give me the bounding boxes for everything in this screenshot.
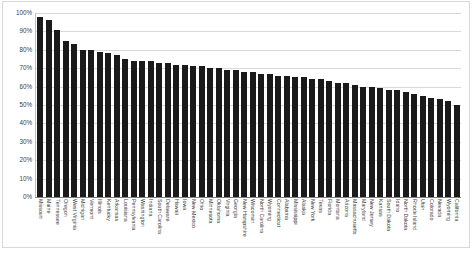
bar — [80, 50, 86, 197]
x-axis-tick-label: New Jersey — [369, 199, 374, 227]
bar — [445, 101, 451, 197]
bar — [250, 72, 256, 197]
x-axis-tick-label: Indiana — [148, 199, 153, 216]
bar — [394, 90, 400, 197]
x-axis-tick-label: Louisiana — [123, 199, 128, 222]
x-axis-tick-label: South Carolina — [157, 199, 162, 234]
y-axis-tick-label: 70% — [19, 65, 32, 71]
bar — [63, 41, 69, 197]
x-axis-tick-label: Washington — [140, 199, 145, 227]
bar — [309, 79, 315, 197]
x-axis-tick-label: Idaho — [395, 199, 400, 212]
bar — [403, 92, 409, 197]
bar — [377, 88, 383, 197]
bar — [54, 30, 60, 197]
bar — [258, 74, 264, 197]
y-axis-tick-label: 30% — [19, 139, 32, 145]
bar-series — [36, 13, 461, 197]
y-axis-tick-label: 40% — [19, 120, 32, 126]
bar — [97, 52, 103, 197]
x-axis-tick-label: California — [454, 199, 459, 221]
x-axis-tick-label: Florida — [327, 199, 332, 215]
x-axis-tick-label: Colorado — [429, 199, 434, 221]
x-axis-tick-label: Iowa — [182, 199, 187, 210]
x-axis-tick-label: Delaware — [165, 199, 170, 221]
y-axis-tick-label: 10% — [19, 175, 32, 181]
x-axis-tick-label: Georgia — [233, 199, 238, 218]
bar — [88, 50, 94, 197]
bar — [37, 17, 43, 197]
bar — [386, 90, 392, 197]
x-axis-tick-label: South Dakota — [386, 199, 391, 231]
bar — [182, 65, 188, 197]
bar — [292, 77, 298, 197]
bar — [369, 87, 375, 197]
bar — [139, 61, 145, 197]
x-axis-tick-label: Ohio — [199, 199, 204, 210]
bar — [335, 83, 341, 197]
bar — [360, 87, 366, 197]
x-axis-tick-label: Texas — [318, 199, 323, 213]
bar — [352, 85, 358, 197]
bar — [173, 65, 179, 197]
bar — [343, 83, 349, 197]
x-axis-tick-label: New Mexico — [191, 199, 196, 228]
x-axis-tick-label: Maryland — [361, 199, 366, 221]
x-axis-tick-label: Connecticut — [276, 199, 281, 227]
y-axis-tick-label: 0% — [23, 194, 32, 200]
plot-area: 100%90%80%70%60%50%40%30%20%10%0% Missou… — [35, 13, 461, 198]
bar — [216, 68, 222, 197]
bar — [233, 70, 239, 197]
bar — [241, 72, 247, 197]
x-axis-tick-label: Massachusetts — [352, 199, 357, 234]
bar — [411, 94, 417, 197]
x-axis-tick-label: Michigan — [80, 199, 85, 220]
chart-frame: 100%90%80%70%60%50%40%30%20%10%0% Missou… — [2, 1, 470, 248]
chart-screenshot: 100%90%80%70%60%50%40%30%20%10%0% Missou… — [0, 0, 473, 255]
x-axis-tick-label: Oregon — [63, 199, 68, 217]
x-axis-tick-label: New York — [310, 199, 315, 221]
x-axis-tick-label: Mississippi — [293, 199, 298, 225]
x-axis-tick-label: Minnesota — [208, 199, 213, 223]
bar — [71, 44, 77, 197]
x-axis-tick-label: Kentucky — [106, 199, 111, 221]
bar — [275, 76, 281, 197]
x-axis-tick-label: Pennsylvania — [131, 199, 136, 231]
y-axis-tick-label: 90% — [19, 28, 32, 34]
x-axis-tick-label: Nevada — [437, 199, 442, 217]
bar — [318, 79, 324, 197]
x-axis-tick-label: Oklahoma — [216, 199, 221, 223]
bar — [114, 55, 120, 197]
x-axis-tick-label: Alabama — [284, 199, 289, 220]
bar — [122, 59, 128, 197]
x-axis-tick-label: Kansas — [378, 199, 383, 217]
bar — [428, 98, 434, 197]
x-axis-tick-label: Wyoming — [267, 199, 272, 221]
bar — [437, 99, 443, 197]
bar — [207, 68, 213, 197]
x-axis-tick-label: North Carolina — [259, 199, 264, 233]
x-axis-tick-label: Arizona — [344, 199, 349, 217]
x-axis-tick-label: Vermont — [89, 199, 94, 219]
x-axis-tick-label: New Hampshire — [242, 199, 247, 237]
x-axis-tick-label: Tennessee — [55, 199, 60, 225]
x-axis-tick-label: Missouri — [38, 199, 43, 219]
bar — [156, 63, 162, 197]
bar — [454, 105, 460, 197]
bar — [267, 74, 273, 197]
bar — [301, 77, 307, 197]
bar — [190, 66, 196, 197]
x-axis-tick-label: Maine — [46, 199, 51, 213]
bar — [284, 76, 290, 197]
y-axis-tick-label: 100% — [16, 10, 32, 16]
bar — [326, 81, 332, 197]
x-axis-tick-label: West Virginia — [72, 199, 77, 230]
x-axis-tick-label: Montana — [335, 199, 340, 220]
bar — [224, 70, 230, 197]
bar — [165, 63, 171, 197]
x-axis-tick-label: Alaska — [301, 199, 306, 215]
y-axis-tick-label: 80% — [19, 47, 32, 53]
x-axis-tick-label: Wisconsin — [250, 199, 255, 223]
x-axis-tick-label: North Dakota — [403, 199, 408, 230]
x-axis-tick-label: Wyoming — [446, 199, 451, 221]
